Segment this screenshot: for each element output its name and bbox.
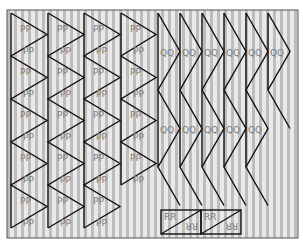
pp-label: PP bbox=[60, 175, 71, 185]
pp-label: PP bbox=[93, 24, 104, 34]
qq-label: QQ bbox=[226, 125, 240, 135]
pp-label: PP bbox=[96, 89, 107, 99]
qq-label: QQ bbox=[270, 48, 284, 58]
pp-label: PP bbox=[60, 218, 71, 228]
pp-label: PP bbox=[20, 153, 31, 163]
pp-label: PP bbox=[130, 24, 141, 34]
pp-label: PP bbox=[20, 196, 31, 206]
pp-label: PP bbox=[133, 132, 144, 142]
pp-label: PP bbox=[93, 67, 104, 77]
qq-label: QQ bbox=[204, 48, 218, 58]
pp-label: PP bbox=[96, 132, 107, 142]
pp-label: PP bbox=[57, 24, 68, 34]
pp-label: PP bbox=[96, 218, 107, 228]
pp-label: PP bbox=[60, 132, 71, 142]
pp-label: PP bbox=[23, 46, 34, 56]
pp-label: PP bbox=[93, 196, 104, 206]
pp-label: PP bbox=[96, 46, 107, 56]
rr-label-flipped: RR bbox=[185, 221, 198, 231]
qq-label: QQ bbox=[204, 125, 218, 135]
pp-label: PP bbox=[23, 218, 34, 228]
pp-label: PP bbox=[57, 153, 68, 163]
pp-label: PP bbox=[130, 110, 141, 120]
qq-label: QQ bbox=[248, 125, 262, 135]
rr-label-flipped: RR bbox=[225, 221, 238, 231]
pp-label: PP bbox=[23, 175, 34, 185]
pp-label: PP bbox=[133, 175, 144, 185]
qq-label: QQ bbox=[160, 48, 174, 58]
pp-label: PP bbox=[60, 89, 71, 99]
qq-label: QQ bbox=[182, 125, 196, 135]
pp-label: PP bbox=[130, 67, 141, 77]
qq-label: QQ bbox=[160, 125, 174, 135]
pp-label: PP bbox=[20, 110, 31, 120]
pp-label: PP bbox=[57, 196, 68, 206]
pp-label: PP bbox=[96, 175, 107, 185]
pp-label: PP bbox=[133, 46, 144, 56]
rr-label: RR bbox=[164, 212, 177, 222]
pp-label: PP bbox=[93, 110, 104, 120]
pp-label: PP bbox=[20, 24, 31, 34]
pp-label: PP bbox=[93, 153, 104, 163]
pp-label: PP bbox=[57, 67, 68, 77]
pp-label: PP bbox=[133, 89, 144, 99]
qq-label: QQ bbox=[226, 48, 240, 58]
pp-label: PP bbox=[57, 110, 68, 120]
pp-label: PP bbox=[23, 132, 34, 142]
pp-label: PP bbox=[130, 153, 141, 163]
qq-label: QQ bbox=[182, 48, 196, 58]
rr-label: RR bbox=[204, 212, 217, 222]
qq-label: QQ bbox=[248, 48, 262, 58]
pattern-figure: PPPPPPPPPPPPPPPPPPPPPPPPPPPPPPPPPPPPPPPP… bbox=[0, 0, 303, 244]
pp-label: PP bbox=[23, 89, 34, 99]
pp-label: PP bbox=[60, 46, 71, 56]
pp-label: PP bbox=[20, 67, 31, 77]
